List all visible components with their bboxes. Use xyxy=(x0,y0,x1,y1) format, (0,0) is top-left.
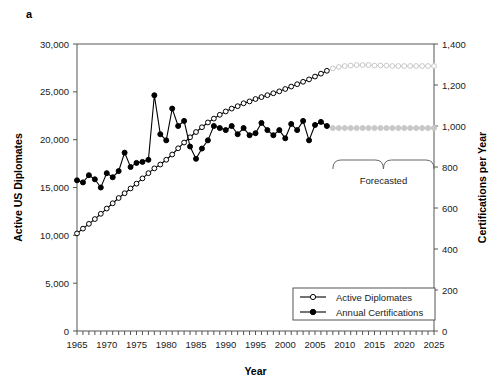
data-point-open-circle xyxy=(152,166,157,171)
x-axis-title: Year xyxy=(244,365,266,377)
y-axis-right-tick-label: 1,400 xyxy=(442,39,466,50)
y-axis-right-tick-label: 1,200 xyxy=(442,80,466,91)
data-point-filled-circle xyxy=(253,131,258,136)
data-point-open-circle xyxy=(432,64,437,69)
data-point-open-circle xyxy=(265,93,270,98)
data-point-filled-circle xyxy=(330,126,335,131)
data-point-filled-circle xyxy=(426,126,431,131)
data-point-filled-circle xyxy=(372,126,377,131)
data-point-filled-circle xyxy=(241,126,246,131)
legend-item-label: Annual Certifications xyxy=(336,307,423,318)
panel-label: a xyxy=(26,8,33,20)
data-point-filled-circle xyxy=(75,178,80,183)
data-point-open-circle xyxy=(366,63,371,68)
data-point-filled-circle xyxy=(396,126,401,131)
data-point-open-circle xyxy=(378,63,383,68)
data-point-filled-circle xyxy=(110,175,115,180)
series-line-annual-certifications xyxy=(77,95,327,187)
data-point-open-circle xyxy=(271,91,276,96)
x-axis-tick-label: 1975 xyxy=(126,339,147,350)
data-point-filled-circle xyxy=(289,121,294,126)
x-axis-tick-label: 1990 xyxy=(215,339,236,350)
forecast-bracket-icon xyxy=(333,160,434,169)
data-point-open-circle xyxy=(384,63,389,68)
data-point-open-circle xyxy=(330,66,335,71)
legend-marker-open-circle xyxy=(310,294,315,299)
data-point-filled-circle xyxy=(348,126,353,131)
chart-figure: 05,00010,00015,00020,00025,00030,0000200… xyxy=(0,0,502,388)
y-axis-right-title: Certifications per Year xyxy=(476,132,488,243)
y-axis-left-tick-label: 10,000 xyxy=(40,230,69,241)
data-point-open-circle xyxy=(289,84,294,89)
data-point-open-circle xyxy=(211,116,216,121)
y-axis-left-title: Active US Diplomates xyxy=(12,133,24,242)
data-point-open-circle xyxy=(128,186,133,191)
x-axis-tick-label: 1965 xyxy=(66,339,87,350)
data-point-filled-circle xyxy=(211,124,216,129)
data-point-filled-circle xyxy=(188,144,193,149)
data-point-filled-circle xyxy=(271,133,276,138)
data-point-filled-circle xyxy=(414,126,419,131)
data-point-open-circle xyxy=(200,125,205,130)
legend-item-label: Active Diplomates xyxy=(336,292,412,303)
y-axis-left-tick-label: 15,000 xyxy=(40,182,69,193)
data-point-filled-circle xyxy=(313,122,318,127)
data-point-filled-circle xyxy=(324,124,329,129)
data-point-open-circle xyxy=(81,226,86,231)
data-point-filled-circle xyxy=(360,126,365,131)
data-point-open-circle xyxy=(348,63,353,68)
data-point-open-circle xyxy=(122,191,127,196)
data-point-open-circle xyxy=(414,64,419,69)
x-axis-tick-label: 2010 xyxy=(334,339,355,350)
data-point-filled-circle xyxy=(182,118,187,123)
data-point-filled-circle xyxy=(164,138,169,143)
y-axis-right-tick-label: 400 xyxy=(442,244,458,255)
x-axis-tick-label: 2000 xyxy=(275,339,296,350)
data-point-filled-circle xyxy=(170,106,175,111)
forecast-bracket-label: Forecasted xyxy=(360,175,408,186)
data-point-filled-circle xyxy=(223,128,228,133)
data-point-filled-circle xyxy=(247,133,252,138)
data-point-filled-circle xyxy=(98,185,103,190)
data-point-filled-circle xyxy=(205,138,210,143)
data-point-filled-circle xyxy=(259,120,264,125)
data-point-open-circle xyxy=(116,196,121,201)
data-point-filled-circle xyxy=(378,126,383,131)
data-point-open-circle xyxy=(426,64,431,69)
data-point-open-circle xyxy=(176,146,181,151)
data-point-open-circle xyxy=(390,64,395,69)
x-axis-tick-label: 1980 xyxy=(156,339,177,350)
data-point-open-circle xyxy=(313,74,318,79)
data-point-open-circle xyxy=(170,152,175,157)
y-axis-left-tick-label: 20,000 xyxy=(40,134,69,145)
data-point-filled-circle xyxy=(152,93,157,98)
data-point-open-circle xyxy=(164,157,169,162)
data-point-open-circle xyxy=(342,64,347,69)
data-point-filled-circle xyxy=(134,160,139,165)
y-axis-right-tick-label: 1,000 xyxy=(442,121,466,132)
data-point-filled-circle xyxy=(342,126,347,131)
data-point-filled-circle xyxy=(408,126,413,131)
data-point-filled-circle xyxy=(235,132,240,137)
data-point-open-circle xyxy=(277,89,282,94)
data-point-open-circle xyxy=(235,104,240,109)
x-axis-tick-label: 2025 xyxy=(423,339,444,350)
data-point-open-circle xyxy=(396,64,401,69)
data-point-filled-circle xyxy=(122,150,127,155)
data-point-filled-circle xyxy=(354,126,359,131)
x-axis-tick-label: 2015 xyxy=(364,339,385,350)
data-point-open-circle xyxy=(307,77,312,82)
data-point-open-circle xyxy=(92,217,97,222)
x-axis-tick-label: 2020 xyxy=(394,339,415,350)
x-axis-tick-label: 1995 xyxy=(245,339,266,350)
data-point-open-circle xyxy=(253,97,258,102)
data-point-open-circle xyxy=(247,99,252,104)
data-point-open-circle xyxy=(146,171,151,176)
data-point-open-circle xyxy=(402,64,407,69)
data-point-open-circle xyxy=(140,176,145,181)
chart-canvas: 05,00010,00015,00020,00025,00030,0000200… xyxy=(0,0,502,388)
data-point-open-circle xyxy=(182,140,187,145)
data-point-open-circle xyxy=(229,106,234,111)
data-point-filled-circle xyxy=(390,126,395,131)
data-point-filled-circle xyxy=(217,126,222,131)
